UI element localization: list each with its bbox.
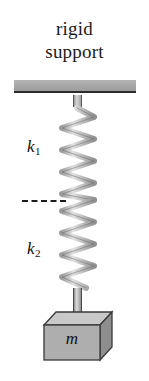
mass-label: m bbox=[44, 330, 100, 347]
mass-block bbox=[0, 0, 149, 381]
spring-mass-diagram: rigid support k1 k2 m bbox=[0, 0, 149, 381]
